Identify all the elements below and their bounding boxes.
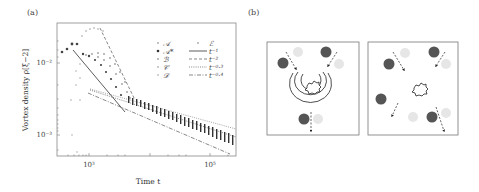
line-t-minus-1: [73, 50, 125, 112]
vortex-density-chart: 10⁻² 10⁻³ 10³ 10⁵ Time t Vortex density …: [0, 0, 479, 192]
vortex-light: [313, 114, 323, 124]
line-t-minus-0.3b: [90, 89, 236, 129]
y-axis-title: Vortex density ρ[ξ−2]: [21, 49, 30, 132]
vortex-dark: [376, 94, 387, 105]
legend-label-t-minus-0.4: t⁻⁰·⁴: [209, 72, 224, 80]
line-t-minus-0.4: [88, 93, 230, 154]
legend-marker-b: [157, 58, 159, 60]
y-ticks: [57, 41, 60, 150]
vortex-dark: [384, 59, 395, 70]
y-tick-label: 10⁻²: [37, 59, 53, 67]
x-tick-label: 10⁵: [204, 161, 216, 169]
legend-label-t-minus-0.3: t⁻⁰·³: [209, 64, 224, 72]
vortex-dark: [429, 47, 440, 58]
vortex-dark: [427, 112, 438, 123]
line-t-minus-0.3: [90, 90, 236, 137]
legend-label-t-minus-2: t⁻²: [209, 56, 219, 64]
legend-label-d: 𝒟: [163, 72, 170, 80]
late-time-markers: [128, 96, 233, 145]
vortex-light: [293, 47, 303, 57]
vortex-light: [441, 59, 451, 69]
legend-label-e: ℰ: [209, 40, 214, 48]
vortex-dark: [321, 47, 332, 58]
legend-marker-c: [157, 66, 159, 68]
vortex-dark: [299, 114, 310, 125]
legend: 𝒜 𝒜* ℬ 𝒞 𝒟 ℰ t⁻¹ t⁻² t⁻⁰·³ t⁻⁰·⁴: [157, 40, 224, 80]
legend-label-a: 𝒜: [163, 40, 172, 48]
legend-label-c: 𝒞: [163, 64, 170, 72]
legend-marker-a-star: [157, 50, 160, 53]
vortex-light: [334, 59, 344, 69]
legend-label-t-minus-1: t⁻¹: [209, 48, 219, 56]
x-ticks: [68, 153, 228, 156]
legend-marker-e: [197, 42, 199, 44]
legend-marker-d: [157, 74, 159, 76]
schematic-left-box: [267, 42, 359, 135]
legend-marker-a: [157, 42, 159, 44]
line-t-minus-2: [100, 28, 135, 100]
vortex-light: [400, 48, 410, 58]
y-tick-label: 10⁻³: [37, 131, 53, 139]
legend-label-b: ℬ: [163, 56, 169, 64]
vortex-light: [408, 112, 418, 122]
vortex-dark: [278, 58, 289, 69]
x-tick-label: 10³: [83, 161, 95, 169]
legend-label-a-star: 𝒜*: [163, 48, 174, 56]
x-axis-title: Time t: [136, 177, 160, 186]
vortex-light: [441, 108, 451, 118]
series-a-star: [61, 43, 122, 97]
schematic-right-box: [368, 42, 458, 135]
series-a-d: [70, 63, 80, 152]
